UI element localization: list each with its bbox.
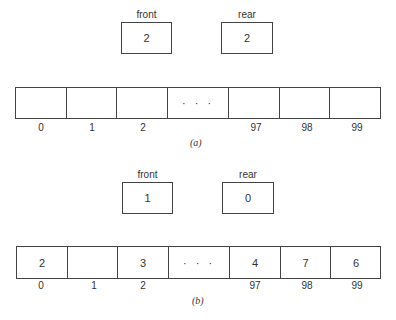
rear-label: rear bbox=[221, 9, 273, 20]
index-0: 0 bbox=[26, 122, 56, 133]
queue-array: 2 3 · · · 4 7 6 bbox=[16, 246, 381, 279]
array-cell-2 bbox=[117, 88, 168, 118]
rear-pointer-box: 2 bbox=[221, 22, 273, 54]
index-97: 97 bbox=[241, 122, 271, 133]
index-99: 99 bbox=[342, 122, 372, 133]
front-label: front bbox=[121, 9, 172, 20]
array-cell-0 bbox=[16, 88, 67, 118]
index-98: 98 bbox=[292, 122, 322, 133]
array-cell-98: 7 bbox=[281, 247, 331, 278]
index-1: 1 bbox=[77, 122, 107, 133]
caption-b: (b) bbox=[192, 295, 204, 306]
index-1: 1 bbox=[79, 280, 109, 291]
array-ellipsis: · · · bbox=[169, 247, 230, 278]
front-pointer-box: 1 bbox=[122, 182, 173, 214]
front-label: front bbox=[122, 169, 173, 180]
index-2: 2 bbox=[128, 122, 158, 133]
array-cell-99: 6 bbox=[331, 247, 381, 278]
array-cell-98 bbox=[280, 88, 330, 118]
front-pointer-box: 2 bbox=[121, 22, 172, 54]
array-cell-97 bbox=[229, 88, 280, 118]
rear-label: rear bbox=[222, 169, 274, 180]
array-cell-97: 4 bbox=[230, 247, 281, 278]
index-97: 97 bbox=[240, 280, 270, 291]
array-cell-99 bbox=[330, 88, 380, 118]
array-ellipsis: · · · bbox=[168, 88, 229, 118]
caption-a: (a) bbox=[190, 137, 202, 148]
index-2: 2 bbox=[128, 280, 158, 291]
queue-array: · · · bbox=[15, 87, 381, 119]
array-cell-2: 3 bbox=[118, 247, 169, 278]
index-98: 98 bbox=[292, 280, 322, 291]
index-99: 99 bbox=[342, 280, 372, 291]
index-0: 0 bbox=[26, 280, 56, 291]
array-cell-1 bbox=[68, 247, 118, 278]
array-cell-1 bbox=[67, 88, 117, 118]
rear-pointer-box: 0 bbox=[222, 182, 274, 214]
array-cell-0: 2 bbox=[17, 247, 68, 278]
